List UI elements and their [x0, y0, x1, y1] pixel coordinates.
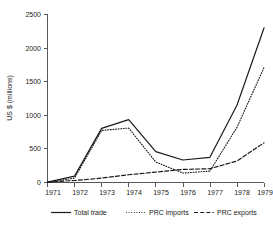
x-axis-ticks [48, 183, 265, 187]
y-axis-title: US $ (millions) [6, 75, 14, 121]
y-tick-label-1000: 1000 [25, 112, 41, 119]
legend: Total trade PRC imports PRC exports [51, 209, 257, 217]
line-chart: 0 500 1000 1500 2000 2500 US $ (millions… [0, 0, 273, 229]
plot-area [47, 14, 264, 182]
y-tick-label-2500: 2500 [25, 11, 41, 18]
legend-label-prc-imports: PRC imports [149, 209, 189, 217]
x-tick-label-1971: 1971 [45, 189, 61, 196]
x-tick-label-1978: 1978 [234, 189, 250, 196]
y-axis-ticks: 0 500 1000 1500 2000 2500 [25, 11, 47, 186]
x-tick-label-1972: 1972 [72, 189, 88, 196]
x-tick-label-1979: 1979 [257, 189, 273, 196]
legend-label-total-trade: Total trade [74, 209, 107, 216]
x-tick-label-1975: 1975 [153, 189, 169, 196]
y-tick-label-500: 500 [29, 145, 41, 152]
x-tick-label-1976: 1976 [180, 189, 196, 196]
x-axis-labels: 1971 1972 1973 1974 1975 1976 1977 1978 … [45, 189, 273, 196]
y-tick-label-0: 0 [37, 179, 41, 186]
x-tick-label-1973: 1973 [99, 189, 115, 196]
chart-container: 0 500 1000 1500 2000 2500 US $ (millions… [0, 0, 273, 229]
x-tick-label-1977: 1977 [207, 189, 223, 196]
legend-label-prc-exports: PRC exports [217, 209, 257, 217]
y-tick-label-1500: 1500 [25, 78, 41, 85]
y-tick-label-2000: 2000 [25, 45, 41, 52]
x-tick-label-1974: 1974 [126, 189, 142, 196]
